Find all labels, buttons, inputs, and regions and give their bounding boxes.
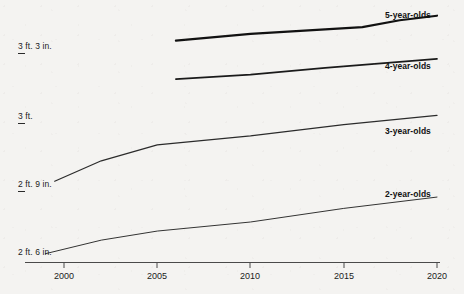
series-label-4-year-olds: 4-year-olds — [385, 61, 431, 71]
x-axis-label-2020: 2020 — [427, 271, 447, 281]
x-axis-label-2005: 2005 — [147, 271, 167, 281]
y-tick-3ft3in — [18, 53, 25, 54]
series-label-3-year-olds: 3-year-olds — [385, 126, 431, 136]
series-line-3-year-olds — [55, 115, 437, 181]
x-axis-label-2015: 2015 — [334, 271, 354, 281]
x-axis-label-2000: 2000 — [54, 271, 74, 281]
series-line-2-year-olds — [45, 197, 437, 254]
y-axis-label-3ft3in: 3 ft. 3 in. — [18, 41, 52, 51]
series-label-2-year-olds: 2-year-olds — [385, 189, 431, 199]
x-axis-label-2010: 2010 — [240, 271, 260, 281]
y-axis-label-2ft6in: 2 ft. 6 in. — [18, 247, 52, 257]
series-label-5-year-olds: 5-year-olds — [385, 10, 431, 20]
y-axis-label-3ft: 3 ft. — [18, 111, 33, 121]
y-tick-3ft — [18, 123, 25, 124]
y-axis-label-2ft9in: 2 ft. 9 in. — [18, 179, 52, 189]
chart-container: 3 ft. 3 in. 3 ft. 2 ft. 9 in. 2 ft. 6 in… — [0, 0, 464, 294]
line-chart-plot — [0, 0, 464, 294]
y-tick-2ft9in — [18, 191, 25, 192]
